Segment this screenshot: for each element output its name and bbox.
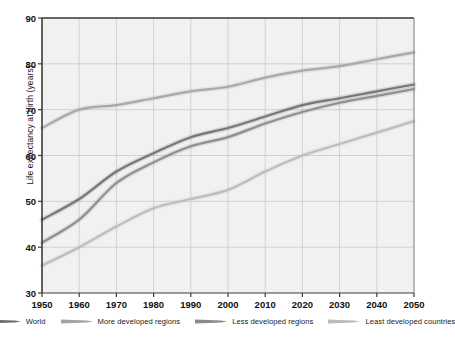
legend-item[interactable]: More developed regions xyxy=(60,317,181,326)
legend-label: More developed regions xyxy=(98,317,181,326)
legend-swatch-icon xyxy=(327,317,361,326)
legend-swatch-icon xyxy=(60,317,94,326)
legend-swatch-icon xyxy=(194,317,228,326)
legend-item[interactable]: Less developed regions xyxy=(194,317,313,326)
chart-legend: WorldMore developed regionsLess develope… xyxy=(0,312,443,330)
legend-label: World xyxy=(26,317,46,326)
legend-label: Least developed countries xyxy=(365,317,455,326)
legend-item[interactable]: Least developed countries xyxy=(327,317,455,326)
legend-label: Less developed regions xyxy=(232,317,313,326)
legend-item[interactable]: World xyxy=(0,317,46,326)
legend-swatch-icon xyxy=(0,317,22,326)
